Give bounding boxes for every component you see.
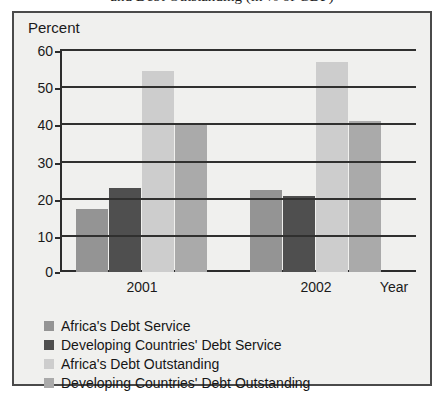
legend-swatch-icon <box>44 359 54 369</box>
y-tick-mark <box>55 51 60 53</box>
chart-frame: Percent 0102030405060 20012002Year Afric… <box>12 11 432 386</box>
y-tick-mark <box>55 125 60 127</box>
chart-title-clipped: and Debt Outstanding (in % of GDP) <box>0 0 444 11</box>
legend-swatch-icon <box>44 340 54 350</box>
y-tick-mark <box>55 272 60 274</box>
y-tick-label: 40 <box>37 117 53 133</box>
legend-item: Africa's Debt Outstanding <box>44 354 404 373</box>
x-axis-title: Year <box>369 279 419 295</box>
legend-item: Africa's Debt Service <box>44 316 404 335</box>
bar <box>142 71 174 272</box>
gridline: 60 <box>60 49 416 51</box>
y-tick-label: 60 <box>37 43 53 59</box>
bar <box>250 190 282 272</box>
legend-item: Developing Countries' Debt Service <box>44 335 404 354</box>
legend-swatch-icon <box>44 378 54 388</box>
chart-legend: Africa's Debt ServiceDeveloping Countrie… <box>44 316 404 392</box>
gridline: 10 <box>60 235 416 237</box>
legend-item: Developing Countries' Debt Outstanding <box>44 373 404 392</box>
bar <box>316 62 348 272</box>
y-tick-label: 0 <box>45 264 53 280</box>
gridline: 40 <box>60 123 416 125</box>
legend-label: Developing Countries' Debt Service <box>61 337 282 353</box>
y-tick-mark <box>55 237 60 239</box>
legend-label: Developing Countries' Debt Outstanding <box>61 375 310 391</box>
y-tick-mark <box>55 200 60 202</box>
y-tick-label: 30 <box>37 155 53 171</box>
bar <box>109 188 141 272</box>
y-axis-title: Percent <box>28 19 80 36</box>
legend-swatch-icon <box>44 321 54 331</box>
legend-label: Africa's Debt Outstanding <box>61 356 219 372</box>
x-tick-label: 2001 <box>76 279 208 295</box>
y-tick-label: 10 <box>37 229 53 245</box>
gridline: 20 <box>60 198 416 200</box>
legend-label: Africa's Debt Service <box>61 318 191 334</box>
bar <box>76 209 108 272</box>
y-tick-label: 50 <box>37 80 53 96</box>
gridline: 50 <box>60 86 416 88</box>
gridline: 30 <box>60 161 416 163</box>
y-tick-label: 20 <box>37 192 53 208</box>
y-tick-mark <box>55 163 60 165</box>
chart-title-text: and Debt Outstanding (in % of GDP) <box>110 0 333 5</box>
x-tick-label: 2002 <box>250 279 382 295</box>
y-tick-mark <box>55 88 60 90</box>
plot-area: 0102030405060 <box>60 49 416 272</box>
